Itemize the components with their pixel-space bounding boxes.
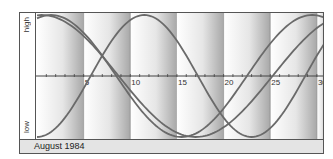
- footer-bar: August 1984: [20, 139, 323, 153]
- plot-area: 51015202530: [36, 13, 323, 139]
- x-tick-label: 30: [318, 78, 323, 87]
- y-label-low: low: [22, 121, 31, 133]
- y-axis-labels: high low: [20, 13, 36, 139]
- x-tick-label: 20: [225, 78, 234, 87]
- y-label-high: high: [22, 17, 31, 32]
- chart-frame: high low 51015202530 August 1984: [19, 12, 324, 154]
- x-tick-label: 25: [271, 78, 280, 87]
- x-tick-label: 10: [131, 78, 140, 87]
- month-label: August 1984: [34, 141, 85, 151]
- x-tick-label: 15: [178, 78, 187, 87]
